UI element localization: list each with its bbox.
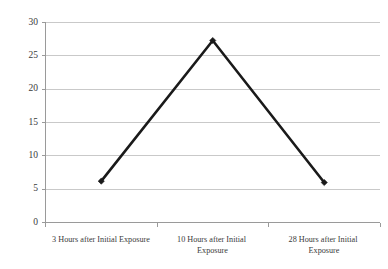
x-axis-tick-labels: 3 Hours after Initial Exposure 10 Hours … bbox=[52, 235, 359, 255]
y-tick-label-10: 10 bbox=[29, 150, 39, 160]
y-axis-tick-labels: 30 25 20 15 10 5 0 bbox=[29, 17, 39, 227]
y-tick-label-0: 0 bbox=[33, 217, 38, 227]
y-tick-label-5: 5 bbox=[33, 183, 38, 193]
y-tick-label-15: 15 bbox=[29, 117, 39, 127]
chart-canvas: 30 25 20 15 10 5 0 3 Hours after Initial… bbox=[0, 0, 388, 269]
gridlines bbox=[46, 23, 381, 190]
y-tick-label-20: 20 bbox=[29, 83, 39, 93]
x-axis-ticks bbox=[46, 223, 381, 228]
series-line bbox=[101, 41, 324, 183]
x-tick-label-0: 3 Hours after Initial Exposure bbox=[52, 235, 150, 244]
x-tick-label-2: 28 Hours after Initial Exposure bbox=[289, 235, 360, 255]
x-tick-label-1: 10 Hours after Initial Exposure bbox=[177, 235, 248, 255]
line-chart: 30 25 20 15 10 5 0 3 Hours after Initial… bbox=[0, 0, 388, 269]
y-axis-ticks bbox=[42, 23, 46, 223]
y-tick-label-30: 30 bbox=[29, 17, 39, 27]
y-tick-label-25: 25 bbox=[29, 50, 39, 60]
series-markers bbox=[98, 37, 327, 185]
